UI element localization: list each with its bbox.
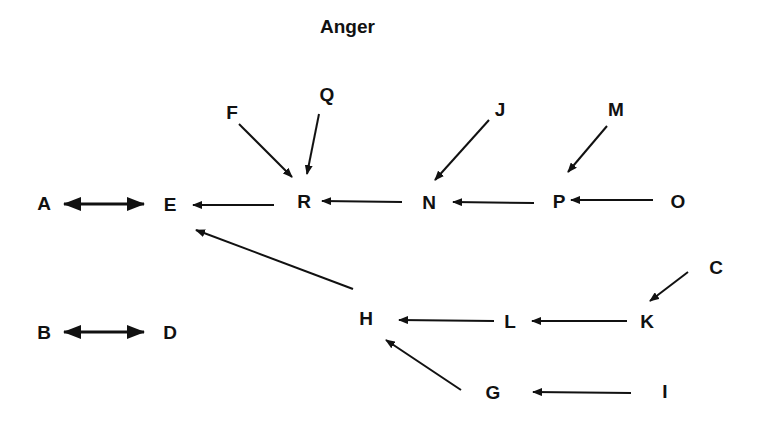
arrow-i-to-g: [533, 392, 631, 393]
node-g: G: [486, 383, 501, 402]
arrow-l-to-h: [399, 320, 494, 321]
arrow-h-to-e: [196, 230, 353, 289]
node-p: P: [553, 192, 566, 211]
node-h: H: [359, 309, 373, 328]
arrow-m-to-p: [568, 126, 607, 172]
node-n: N: [422, 193, 436, 212]
node-i: I: [662, 382, 667, 401]
node-q: Q: [320, 85, 335, 104]
arrow-c-to-k: [650, 272, 688, 301]
node-a: A: [37, 194, 51, 213]
node-f: F: [226, 103, 238, 122]
node-d: D: [163, 323, 177, 342]
node-m: M: [608, 100, 624, 119]
edges-layer: [0, 0, 760, 426]
node-o: O: [671, 192, 686, 211]
arrow-p-to-n: [453, 202, 534, 203]
node-r: R: [297, 192, 311, 211]
arrow-q-to-r: [307, 114, 319, 174]
arrow-n-to-r: [322, 201, 402, 202]
arrow-j-to-n: [435, 120, 489, 180]
arrow-f-to-r: [239, 124, 292, 177]
node-k: K: [640, 312, 654, 331]
arrow-g-to-h: [386, 340, 461, 390]
node-c: C: [709, 258, 723, 277]
node-j: J: [495, 100, 506, 119]
anger-diagram: Anger AEFQRJNMPOCHLKBDGI: [0, 0, 760, 426]
node-e: E: [164, 195, 177, 214]
node-l: L: [504, 312, 516, 331]
node-b: B: [37, 323, 51, 342]
